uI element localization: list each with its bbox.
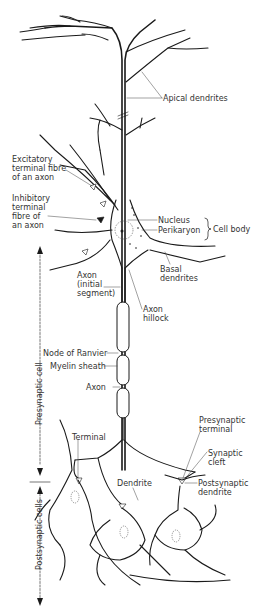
- label-synaptic-cleft: Synaptic cleft: [208, 449, 243, 467]
- axon-terminals: [74, 440, 195, 505]
- label-axon-hillock: Axon hillock: [143, 305, 169, 323]
- axon: [117, 268, 129, 440]
- label-inhibitory-terminal: Inhibitory terminal fibre of an axon: [12, 194, 50, 230]
- inhibitory-terminal-icon: [97, 217, 104, 223]
- nucleus-icon: [115, 221, 133, 239]
- cell-body-brace: [205, 218, 211, 240]
- label-presynaptic-cell: Presynaptic cell: [35, 362, 44, 425]
- label-apical-dendrites: Apical dendrites: [163, 94, 228, 103]
- left-dendrites: [40, 120, 118, 270]
- label-basal-dendrites: Basal dendrites: [160, 265, 198, 283]
- apical-dendrites: [20, 16, 208, 470]
- nucleus-icon: [71, 491, 79, 503]
- myelin-sheath-segment: [117, 355, 129, 385]
- nucleus-icon: [172, 530, 180, 542]
- label-presynaptic-terminal: Presynaptic terminal: [199, 416, 245, 434]
- myelin-sheath-segment: [117, 388, 129, 418]
- postsynaptic-cells: [35, 420, 230, 585]
- label-perikaryon: Perikaryon: [158, 226, 200, 235]
- label-postsynaptic-dendrite: Postsynaptic dendrite: [198, 479, 248, 497]
- label-cell-body: Cell body: [213, 225, 250, 234]
- arrow-up-icon: [37, 486, 43, 494]
- label-axon: Axon: [86, 383, 106, 392]
- arrow-up-icon: [37, 246, 43, 254]
- label-node-of-ranvier: Node of Ranvier: [43, 349, 107, 358]
- label-terminal: Terminal: [72, 433, 106, 442]
- arrow-down-icon: [37, 598, 43, 606]
- label-myelin-sheath: Myelin sheath: [50, 362, 106, 371]
- arrow-down-icon: [37, 468, 43, 476]
- excitatory-terminal-icon: [100, 201, 106, 207]
- label-axon-initial-segment: Axon (initial segment): [77, 271, 115, 298]
- excitatory-terminal-icon: [90, 184, 96, 190]
- excitatory-terminal-icon: [82, 249, 88, 255]
- myelin-sheath-segment: [117, 302, 129, 352]
- label-excitatory-terminal: Excitatory terminal fibre of an axon: [12, 155, 66, 182]
- nucleus-icon: [120, 526, 128, 538]
- label-nucleus: Nucleus: [158, 216, 190, 225]
- label-dendrite: Dendrite: [117, 479, 152, 488]
- label-postsynaptic-cells: Postsynaptic cells: [35, 499, 44, 570]
